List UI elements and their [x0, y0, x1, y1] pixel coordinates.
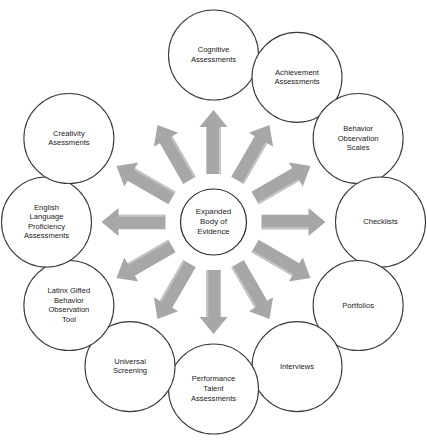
- arrow-bevel: [206, 270, 208, 317]
- arrow-body: [102, 208, 166, 236]
- node-cognitive-assessments[interactable]: CognitiveAssessments: [169, 10, 259, 100]
- arrow-body: [117, 162, 176, 204]
- arrow-7: [200, 270, 228, 334]
- arrow-8: [154, 260, 196, 319]
- node-label-interviews: Interviews: [280, 362, 314, 371]
- node-creativity-asessments[interactable]: CreativityAsessments: [24, 94, 114, 184]
- node-checklists[interactable]: Checklists: [336, 177, 426, 267]
- node-latinx-gifted-behavior-observation-tool[interactable]: Latinx GiftedBehaviorObservationTool: [24, 261, 114, 351]
- hub-layer: ExpandedBody ofEvidence: [181, 189, 247, 255]
- arrow-1: [200, 110, 228, 174]
- arrow-3: [251, 162, 310, 204]
- arrow-10: [102, 208, 166, 236]
- arrow-body: [154, 260, 196, 319]
- arrow-bevel: [262, 227, 309, 229]
- node-label-checklists: Checklists: [363, 217, 398, 226]
- node-english-language-proficiency-assessments[interactable]: EnglishLanguageProficiencyAssessments: [2, 177, 92, 267]
- arrow-11: [117, 162, 176, 204]
- hub-label: ExpandedBody ofEvidence: [196, 207, 232, 236]
- arrow-body: [251, 162, 310, 204]
- arrow-body: [231, 260, 273, 319]
- node-label-universal-screening: UniversalScreening: [113, 357, 147, 376]
- arrow-body: [231, 125, 273, 184]
- arrow-6: [231, 260, 273, 319]
- arrow-bevel: [119, 215, 166, 217]
- radial-diagram-canvas: CognitiveAssessmentsAchievementAssessmen…: [0, 0, 427, 441]
- node-label-portfolios: Portfolios: [342, 301, 374, 310]
- arrow-body: [262, 208, 326, 236]
- arrow-12: [154, 125, 196, 184]
- arrow-5: [251, 240, 310, 282]
- arrow-body: [200, 270, 228, 334]
- arrow-bevel: [219, 127, 221, 174]
- node-label-achievement-assessments: AchievementAssessments: [274, 68, 319, 87]
- arrow-2: [231, 125, 273, 184]
- node-label-creativity-asessments: CreativityAsessments: [48, 129, 90, 148]
- arrow-body: [200, 110, 228, 174]
- node-interviews[interactable]: Interviews: [252, 322, 342, 412]
- node-performance-talent-assessments[interactable]: PerformanceTalentAssessments: [169, 344, 259, 434]
- node-behavior-observation-scales[interactable]: BehaviorObservationScales: [313, 94, 403, 184]
- expanded-body-of-evidence-diagram: CognitiveAssessmentsAchievementAssessmen…: [0, 0, 427, 441]
- arrow-body: [154, 125, 196, 184]
- arrow-4: [262, 208, 326, 236]
- arrow-body: [251, 240, 310, 282]
- arrow-body: [117, 240, 176, 282]
- arrow-9: [117, 240, 176, 282]
